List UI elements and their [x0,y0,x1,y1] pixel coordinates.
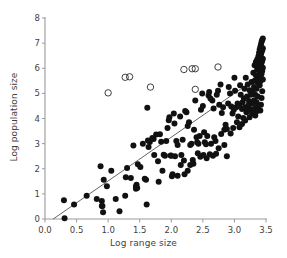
tick-marks [42,18,266,223]
y-tick-label: 6 [27,63,40,73]
y-tick-label: 1 [27,189,40,199]
x-axis-title: Log range size [0,238,287,248]
x-tick-label: 1.5 [133,225,147,235]
x-tick-label: 1.0 [101,225,115,235]
x-tick-label: 3.0 [228,225,242,235]
x-tick-label: 2.5 [196,225,210,235]
y-tick-label: 8 [27,13,40,23]
y-tick-label: 7 [27,38,40,48]
scatter-plot-figure: Log range size Log population size 0.00.… [0,0,287,258]
x-tick-label: 0.0 [38,225,52,235]
x-tick-label: 2.0 [165,225,179,235]
y-tick-label: 2 [27,164,40,174]
x-tick-label: 3.5 [259,225,273,235]
y-tick-label: 4 [27,114,40,124]
y-tick-label: 3 [27,139,40,149]
data-points-filled [61,36,266,222]
y-axis-title: Log population size [9,47,19,187]
x-tick-label: 0.5 [70,225,84,235]
plot-canvas [0,0,287,258]
y-tick-label: 5 [27,88,40,98]
y-tick-label: 0 [27,214,40,224]
axis-lines [45,17,267,219]
